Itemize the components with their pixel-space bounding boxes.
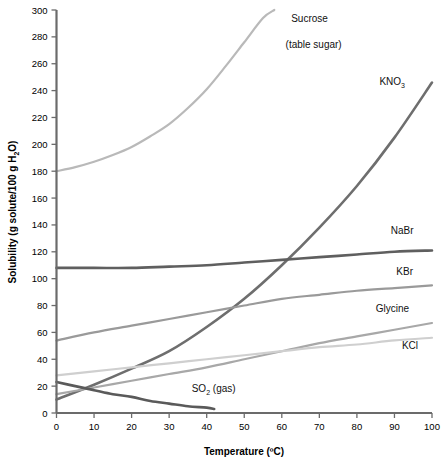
- y-axis-tick-label: 200: [32, 139, 48, 150]
- curve-label-sucrose: Sucrose: [291, 13, 328, 24]
- y-axis-tick-label: 100: [32, 273, 48, 284]
- y-axis-tick-label: 80: [37, 300, 48, 311]
- curve-so2-gas: [57, 382, 215, 409]
- curve-label-nabr: NaBr: [391, 225, 414, 236]
- x-axis-tick-label: 30: [164, 421, 175, 432]
- tick-label-layer: 0204060801001201401601802002202402602803…: [32, 5, 440, 433]
- y-axis-tick-label: 280: [32, 31, 48, 42]
- x-axis-tick-label: 70: [314, 421, 325, 432]
- svg-text:Solubility (g solute/100 g H2O: Solubility (g solute/100 g H2O): [7, 141, 20, 284]
- axis-layer: [52, 10, 433, 418]
- x-axis-title: Temperature (ºC): [204, 446, 284, 457]
- x-axis-tick-label: 0: [54, 421, 59, 432]
- chart-canvas: 0204060801001201401601802002202402602803…: [0, 0, 448, 464]
- curve-label-glycine: Glycine: [376, 303, 410, 314]
- curve-label-kno3: KNO3: [379, 76, 405, 89]
- curve-label-layer: Sucrose(table sugar)KNO3NaBrKBrGlycineKC…: [192, 13, 418, 395]
- curves-layer: [57, 10, 433, 409]
- y-axis-tick-label: 140: [32, 219, 48, 230]
- x-axis-tick-label: 80: [352, 421, 363, 432]
- y-axis-tick-label: 240: [32, 85, 48, 96]
- curve-kcl: [57, 338, 433, 376]
- y-axis-title-pre: Solubility (g solute/100 g H: [7, 156, 18, 284]
- y-axis-tick-label: 120: [32, 246, 48, 257]
- curve-glycine: [57, 323, 433, 394]
- curve-label-sucrose-sub: (table sugar): [286, 39, 342, 50]
- curve-label-kcl: KCl: [402, 340, 418, 351]
- curve-sucrose-table-sugar: [57, 10, 275, 171]
- y-axis-tick-label: 0: [42, 408, 47, 419]
- x-axis-tick-label: 20: [126, 421, 137, 432]
- curve-label-so2: SO2 (gas): [192, 383, 236, 396]
- y-axis-tick-label: 160: [32, 193, 48, 204]
- x-axis-tick-label: 10: [89, 421, 100, 432]
- y-axis-tick-label: 260: [32, 58, 48, 69]
- y-axis-tick-label: 40: [37, 354, 48, 365]
- y-axis-tick-label: 60: [37, 327, 48, 338]
- curve-kno3: [57, 83, 433, 400]
- x-axis-tick-label: 90: [389, 421, 400, 432]
- y-axis-title-post: O): [7, 141, 18, 152]
- y-axis-tick-label: 300: [32, 5, 48, 16]
- x-axis-tick-label: 100: [424, 421, 440, 432]
- y-axis-title: Solubility (g solute/100 g H2O): [7, 141, 20, 284]
- y-axis-tick-label: 20: [37, 381, 48, 392]
- y-axis-tick-label: 180: [32, 166, 48, 177]
- curve-label-kbr: KBr: [396, 266, 413, 277]
- x-axis-tick-label: 50: [239, 421, 250, 432]
- x-axis-tick-label: 60: [277, 421, 288, 432]
- y-axis-tick-label: 220: [32, 112, 48, 123]
- x-axis-tick-label: 40: [201, 421, 212, 432]
- solubility-chart: 0204060801001201401601802002202402602803…: [0, 0, 448, 464]
- curve-nabr: [57, 250, 433, 268]
